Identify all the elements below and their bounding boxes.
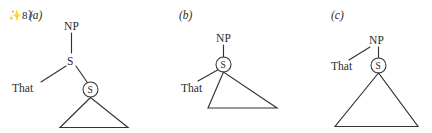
panel-b: (b) NP S That	[179, 9, 277, 108]
panel-a-node-np: NP	[64, 20, 79, 32]
panel-c-terminal-that: That	[331, 60, 353, 72]
panel-a-letter: (a)	[29, 9, 43, 22]
panel-c-branch-np-to-that	[349, 47, 370, 60]
panel-c: (c) NP That S	[331, 9, 418, 127]
panel-b-node-np: NP	[216, 32, 231, 44]
syntax-tree-figure: ✨8〉 (a) NP S That S (b)	[0, 0, 432, 133]
panel-a-node-s-upper: S	[67, 55, 74, 67]
panel-a-branch-s-to-circled-s	[76, 66, 87, 82]
panel-b-terminal-that: That	[181, 82, 203, 94]
panel-a-constituent-triangle	[60, 98, 128, 128]
panel-c-constituent-triangle	[335, 73, 418, 127]
panel-b-node-s-circled: S	[221, 60, 226, 70]
panel-c-node-s-circled: S	[376, 61, 381, 71]
panel-a-branch-s-to-that	[41, 66, 66, 82]
panel-a: (a) NP S That S	[12, 9, 128, 128]
panel-a-terminal-that: That	[12, 82, 34, 94]
panel-b-letter: (b)	[179, 9, 193, 22]
panel-c-node-np: NP	[369, 34, 384, 46]
panel-c-letter: (c)	[331, 9, 344, 22]
tree-diagrams-canvas: ✨8〉 (a) NP S That S (b)	[0, 0, 432, 133]
panel-a-node-s-circled: S	[88, 85, 93, 95]
panel-b-branch-s-to-that	[198, 70, 218, 81]
panel-b-constituent-triangle	[208, 72, 277, 108]
